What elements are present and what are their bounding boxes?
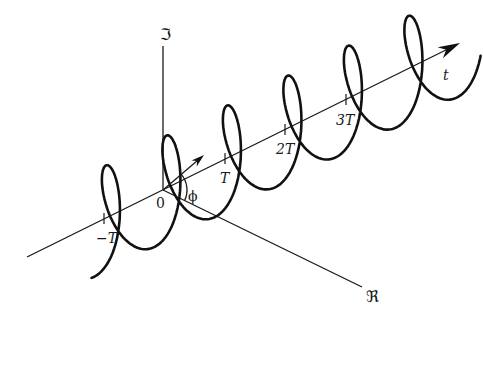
tick-label: 3T (336, 112, 356, 128)
tick-label: 2T (275, 141, 296, 157)
axes (27, 43, 460, 287)
labels: ℑ ℜ t 0 ϕ (156, 25, 449, 306)
tick-marks: −TT2T3T (96, 94, 356, 246)
imaginary-axis-label: ℑ (160, 25, 171, 44)
phase-angle-label: ϕ (188, 188, 198, 204)
helix-phasor-diagram: −TT2T3T ℑ ℜ t 0 ϕ (0, 0, 483, 377)
time-axis-label: t (443, 67, 449, 83)
tick-label: −T (96, 230, 119, 246)
tick-label: T (220, 170, 231, 186)
origin-label: 0 (156, 195, 165, 211)
real-axis-label: ℜ (366, 287, 379, 306)
time-axis-arrowhead-icon (438, 43, 460, 58)
real-axis (163, 190, 362, 287)
